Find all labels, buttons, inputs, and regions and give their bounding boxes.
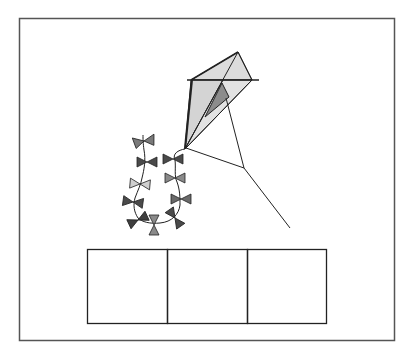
bow [163,154,183,164]
bow [130,178,151,190]
bow [149,215,159,235]
bow [132,134,156,149]
bow [122,196,143,209]
answer-box-1[interactable] [88,250,168,324]
kite-sail-top [191,52,252,80]
bow [171,194,191,204]
bow [165,207,185,229]
kite [185,52,290,228]
figure [0,0,419,356]
answer-box-3[interactable] [248,250,327,324]
answer-box-2[interactable] [168,250,248,324]
kite-string [244,168,290,228]
outer-frame [20,19,395,341]
kite-tail-bows [122,134,191,235]
bow [127,211,149,229]
bow [137,157,157,167]
answer-boxes [88,250,327,324]
